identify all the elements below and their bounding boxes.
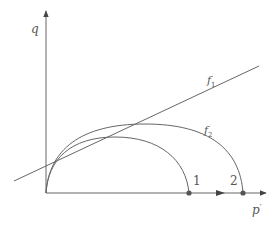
x-axis-label: p′: [252, 202, 262, 217]
stress-path-curve-2: [46, 124, 243, 193]
f1-label: f1: [206, 74, 216, 89]
stress-path-curve-1: [46, 137, 189, 193]
failure-line-f1: [14, 66, 259, 181]
point-2-marker: [240, 190, 245, 195]
point-1-label: 1: [193, 174, 201, 188]
f2-label: f2: [203, 124, 213, 139]
point-2-label: 2: [230, 174, 238, 188]
y-axis-label: q: [31, 22, 39, 36]
x-axis-mid-arrow-icon: [216, 190, 225, 196]
point-1-marker: [186, 190, 191, 195]
diagram-canvas: q f1 f2 1 2 p′: [0, 0, 279, 225]
